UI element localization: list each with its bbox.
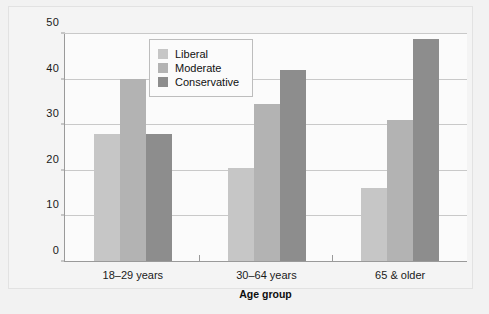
legend-swatch-icon [158, 49, 168, 59]
legend-swatch-icon [158, 77, 168, 87]
bar-moderate-1[interactable] [120, 79, 146, 261]
legend-label: Conservative [175, 76, 239, 88]
bar-moderate-3[interactable] [387, 120, 413, 261]
plot-area: 50403020100 18–29 years30–64 years65 & o… [64, 34, 467, 262]
bar-liberal-1[interactable] [94, 134, 120, 261]
bar-group: 65 & older [333, 34, 467, 261]
legend-item-moderate[interactable]: Moderate [158, 62, 239, 74]
bar-conservative-3[interactable] [413, 39, 439, 261]
y-tick-mark-10 [61, 215, 65, 216]
legend-item-liberal[interactable]: Liberal [158, 48, 239, 60]
y-tick-label-50: 50 [46, 16, 59, 28]
y-tick-mark-20 [61, 169, 65, 170]
bar-conservative-2[interactable] [280, 70, 306, 261]
bar-conservative-1[interactable] [146, 134, 172, 261]
bar-groups: 18–29 years30–64 years65 & older [66, 34, 467, 261]
legend-label: Liberal [175, 48, 208, 60]
x-tick-label: 65 & older [375, 269, 425, 281]
x-tick-label: 18–29 years [103, 269, 164, 281]
x-axis-line [65, 261, 467, 262]
y-tick-label-10: 10 [46, 198, 59, 210]
legend-item-conservative[interactable]: Conservative [158, 76, 239, 88]
chart-page: Percentage of Americans 50403020100 18–2… [0, 0, 489, 314]
y-tick-label-0: 0 [53, 244, 59, 256]
bar-liberal-2[interactable] [228, 168, 254, 261]
x-tick-label: 30–64 years [236, 269, 297, 281]
chart-frame: Percentage of Americans 50403020100 18–2… [8, 6, 473, 289]
y-tick-label-30: 30 [46, 107, 59, 119]
bar-group-bars [361, 34, 439, 261]
y-tick-mark-50 [61, 33, 65, 34]
y-tick-mark-40 [61, 78, 65, 79]
x-axis-title: Age group [64, 288, 467, 300]
y-tick-label-20: 20 [46, 153, 59, 165]
bar-moderate-2[interactable] [254, 104, 280, 261]
bar-liberal-3[interactable] [361, 188, 387, 261]
chart-legend: LiberalModerateConservative [149, 39, 253, 97]
legend-label: Moderate [175, 62, 221, 74]
legend-swatch-icon [158, 63, 168, 73]
y-tick-label-40: 40 [46, 62, 59, 74]
y-tick-mark-30 [61, 124, 65, 125]
